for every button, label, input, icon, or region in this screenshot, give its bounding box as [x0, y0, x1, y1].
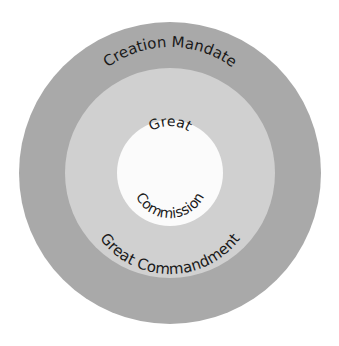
concentric-diagram: Creation Mandate Great Commandment Great… [0, 0, 339, 346]
